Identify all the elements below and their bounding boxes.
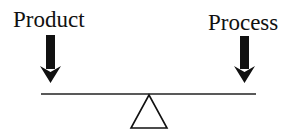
right-down-arrow-icon — [234, 36, 255, 83]
balance-diagram — [0, 0, 296, 136]
left-down-arrow-icon — [40, 35, 61, 83]
fulcrum-triangle — [131, 95, 167, 128]
